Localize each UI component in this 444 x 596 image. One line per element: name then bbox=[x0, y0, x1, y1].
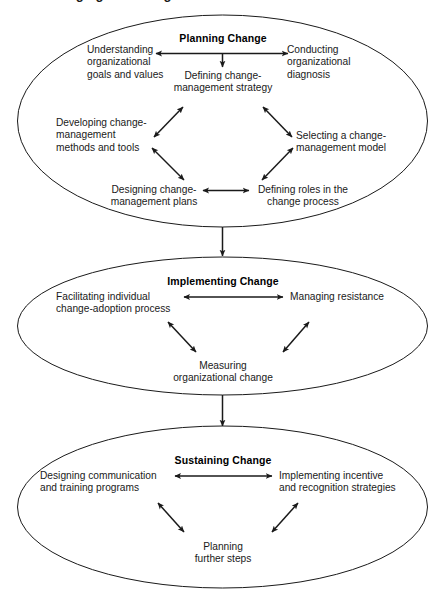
node-conducting-diagnosis-line3: diagnosis bbox=[287, 69, 377, 81]
arrow-selecting-model-to-defining-roles bbox=[262, 148, 293, 180]
node-planning-further: Planning further steps bbox=[172, 541, 274, 566]
arrow-strategy-to-selecting-model bbox=[263, 107, 292, 137]
arrow-measuring-to-managing-resistance bbox=[283, 322, 309, 352]
node-measuring-change-line1: Measuring bbox=[159, 360, 287, 372]
node-defining-roles-line1: Defining roles in the bbox=[251, 184, 355, 196]
node-measuring-change-line2: organizational change bbox=[159, 372, 287, 384]
node-developing-methods-line3: methods and tools bbox=[56, 142, 152, 154]
node-designing-communication-line1: Designing communication bbox=[40, 470, 168, 482]
arrow-facilitating-to-measuring bbox=[168, 322, 196, 352]
node-designing-plans-line2: management plans bbox=[106, 196, 202, 208]
node-designing-plans: Designing change- management plans bbox=[106, 184, 202, 209]
node-facilitating-adoption: Facilitating individual change-adoption … bbox=[56, 291, 176, 316]
node-developing-methods-line2: management bbox=[56, 129, 152, 141]
node-planning-further-line1: Planning bbox=[172, 541, 274, 553]
arrow-developing-to-designing-plans bbox=[152, 148, 184, 180]
node-implementing-incentive: Implementing incentive and recognition s… bbox=[279, 470, 411, 495]
node-measuring-change: Measuring organizational change bbox=[159, 360, 287, 385]
node-planning-further-line2: further steps bbox=[172, 553, 274, 565]
stage-title-planning-change: Planning Change bbox=[168, 32, 278, 44]
arrow-developing-to-strategy bbox=[154, 107, 183, 137]
node-implementing-incentive-line1: Implementing incentive bbox=[279, 470, 411, 482]
node-developing-methods: Developing change- management methods an… bbox=[56, 117, 152, 154]
node-defining-strategy-line1: Defining change- bbox=[156, 70, 290, 82]
node-designing-communication-line2: and training programs bbox=[40, 482, 168, 494]
change-process-diagram: Managing the Change Process bbox=[0, 0, 444, 596]
stage-title-implementing-change: Implementing Change bbox=[160, 275, 286, 287]
stage-title-sustaining-change: Sustaining Change bbox=[167, 454, 279, 466]
node-designing-plans-line1: Designing change- bbox=[106, 184, 202, 196]
node-implementing-incentive-line2: and recognition strategies bbox=[279, 482, 411, 494]
node-understanding-goals-line2: organizational bbox=[87, 56, 172, 68]
node-defining-roles-line2: change process bbox=[251, 196, 355, 208]
node-selecting-model-line1: Selecting a change- bbox=[296, 130, 396, 142]
node-designing-communication: Designing communication and training pro… bbox=[40, 470, 168, 495]
node-understanding-goals-line1: Understanding bbox=[87, 44, 172, 56]
node-selecting-model: Selecting a change- management model bbox=[296, 130, 396, 155]
node-defining-strategy: Defining change- management strategy bbox=[156, 70, 290, 95]
arrow-planning-further-to-implementing-incentive bbox=[272, 503, 298, 532]
node-conducting-diagnosis: Conducting organizational diagnosis bbox=[287, 44, 377, 81]
node-facilitating-adoption-line2: change-adoption process bbox=[56, 303, 176, 315]
node-developing-methods-line1: Developing change- bbox=[56, 117, 152, 129]
node-selecting-model-line2: management model bbox=[296, 142, 396, 154]
node-defining-strategy-line2: management strategy bbox=[156, 82, 290, 94]
arrow-designing-comm-to-planning-further bbox=[158, 503, 184, 532]
node-managing-resistance-line1: Managing resistance bbox=[290, 291, 398, 303]
node-conducting-diagnosis-line1: Conducting bbox=[287, 44, 377, 56]
node-managing-resistance: Managing resistance bbox=[290, 291, 398, 303]
node-facilitating-adoption-line1: Facilitating individual bbox=[56, 291, 176, 303]
node-conducting-diagnosis-line2: organizational bbox=[287, 56, 377, 68]
node-defining-roles: Defining roles in the change process bbox=[251, 184, 355, 209]
